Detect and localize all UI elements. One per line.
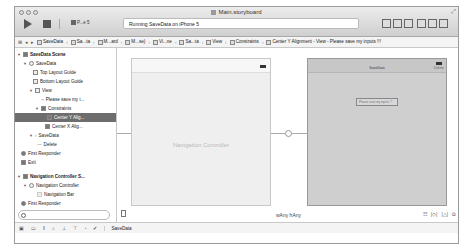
tree-item-label: Delete	[44, 142, 57, 147]
text-field[interactable]: Please save my inputs !!!	[356, 98, 398, 106]
tree-item[interactable]: ▼SaveData Scene	[17, 50, 66, 59]
tree-item-label: Center X Alig...	[52, 124, 83, 129]
tree-item[interactable]: Center X Alig...	[45, 122, 83, 131]
disclosure-triangle-icon[interactable]: ▼	[23, 61, 27, 66]
navigation-bar-icon	[37, 192, 42, 197]
debug-area-toggle-icon[interactable]	[428, 19, 437, 28]
breadcrumb-item[interactable]: Sa...ta	[71, 39, 90, 44]
fullscreen-icon[interactable]: ⤢	[451, 8, 456, 15]
forward-button[interactable]: ▸	[31, 40, 34, 45]
size-class-control[interactable]: wAny hAny	[117, 212, 459, 218]
breadcrumb-item[interactable]: Constraints	[230, 39, 259, 44]
disclosure-triangle-icon[interactable]: ▼	[35, 106, 39, 111]
tree-item[interactable]: Navigation Bar	[37, 190, 74, 199]
step-into-icon[interactable]: ⊥	[62, 226, 66, 231]
tree-item-label: SaveData Scene	[30, 52, 66, 57]
run-button[interactable]	[24, 19, 32, 29]
tree-item[interactable]: ▼Constraints	[35, 104, 71, 113]
window-title-text: Main.storyboard	[218, 9, 261, 15]
text-field-icon: ¬	[41, 97, 44, 102]
breadcrumb-label: View	[212, 39, 222, 44]
stop-button[interactable]	[43, 20, 51, 28]
first-responder-icon	[21, 151, 26, 156]
breadcrumb-item[interactable]: Vi...ne	[153, 39, 172, 44]
tree-item-label: SaveData	[39, 133, 59, 138]
step-out-icon[interactable]: ⊤	[73, 226, 77, 231]
step-over-icon[interactable]: ○	[52, 226, 55, 231]
xcode-window: Main.storyboard ⤢ P...e 5 Running SaveDa…	[14, 6, 459, 244]
back-button[interactable]: ◂	[25, 40, 28, 45]
navigation-controller-scene[interactable]: Navigation Controller Navigation Control…	[131, 58, 271, 206]
utilities-toggle-icon[interactable]	[439, 19, 448, 28]
tree-item[interactable]: Exit	[21, 158, 36, 167]
tree-item-label: Constraints	[48, 106, 71, 111]
savedata-scene[interactable]: SaveData Delete Please save my inputs !!…	[307, 58, 447, 206]
disclosure-triangle-icon[interactable]: ▼	[29, 88, 33, 93]
delete-bar-button[interactable]: Delete	[434, 66, 444, 70]
storyboard-canvas[interactable]: Navigation Controller Navigation Control…	[117, 48, 459, 222]
debug-target[interactable]: SaveData	[104, 226, 131, 231]
align-icon[interactable]: ☷	[423, 211, 427, 218]
chevron-icon: ›	[225, 40, 227, 45]
disclosure-triangle-icon[interactable]: ▼	[17, 52, 21, 57]
scheme-selector[interactable]: P...e 5	[71, 20, 89, 25]
breadcrumb-label: M...se)	[131, 39, 145, 44]
disclosure-triangle-icon[interactable]: ▼	[29, 133, 33, 138]
tree-item[interactable]: Bottom Layout Guide	[33, 77, 83, 86]
resolve-issues-icon[interactable]: |△|	[441, 211, 448, 218]
tree-item[interactable]: ▼SaveData	[23, 59, 56, 68]
constraint-icon	[45, 124, 50, 129]
tree-item[interactable]: —Delete	[37, 140, 57, 149]
segue-icon[interactable]	[285, 130, 292, 137]
tree-item[interactable]: First Responder	[21, 199, 61, 208]
tree-item[interactable]: ¬Please save my i...	[41, 95, 84, 104]
tree-item[interactable]: Top Layout Guide	[33, 68, 76, 77]
tree-item[interactable]: ▼Navigation Controller S...	[17, 172, 85, 181]
resizing-icon[interactable]: ⧉	[452, 211, 456, 218]
activity-status: Running SaveData on iPhone 5	[123, 18, 359, 29]
storyboard-icon	[125, 40, 130, 45]
related-items-icon[interactable]: ⊞	[18, 40, 22, 45]
constraints-icon	[41, 106, 46, 111]
tree-item-label: SaveData	[36, 61, 56, 66]
tree-item-label: Navigation Controller S...	[30, 174, 85, 179]
constraint-icon	[266, 40, 271, 45]
disclosure-triangle-icon[interactable]: ▼	[23, 183, 27, 188]
breadcrumb-item[interactable]: View	[206, 39, 222, 44]
constraints-icon	[230, 40, 235, 45]
chevron-icon: ›	[202, 40, 204, 45]
standard-editor-icon[interactable]	[382, 19, 391, 28]
tree-item-label: Bottom Layout Guide	[40, 79, 83, 84]
breadcrumb-item[interactable]: Center Y Alignment - View - Please save …	[266, 39, 381, 44]
toolbar: Main.storyboard ⤢ P...e 5 Running SaveDa…	[15, 7, 458, 37]
tree-item-label: Center Y Alig...	[54, 115, 84, 120]
view-debugger-icon[interactable]: ◔	[84, 226, 87, 231]
breadcrumb-label: M...ard	[104, 39, 118, 44]
tree-item[interactable]: ▼View	[29, 86, 52, 95]
tree-item-label: Exit	[28, 160, 36, 165]
tree-item[interactable]: First Responder	[21, 149, 61, 158]
version-editor-icon[interactable]	[404, 19, 413, 28]
location-icon[interactable]: ✔	[93, 226, 97, 231]
breadcrumb-label: Sa...ta	[185, 39, 198, 44]
tree-item-selected[interactable]: Center Y Alig...	[15, 113, 116, 122]
breadcrumb-item[interactable]: M...ard	[98, 39, 118, 44]
pin-icon[interactable]: |◇|	[431, 211, 438, 218]
assistant-editor-icon[interactable]	[393, 19, 402, 28]
editor-view-controls	[382, 19, 448, 28]
debug-bar: ▣ ▭ ‖ ○ ⊥ ⊤ ◔ ✔ SaveData	[15, 222, 458, 233]
pause-icon[interactable]: ‖	[43, 226, 45, 231]
breadcrumb-label: SaveData	[43, 39, 63, 44]
tree-item-label: Top Layout Guide	[40, 70, 76, 75]
breadcrumb-item[interactable]: M...se)	[125, 39, 145, 44]
breadcrumb-item[interactable]: Sa...ta	[179, 39, 198, 44]
breadcrumb-item[interactable]: SaveData	[37, 39, 63, 44]
filter-input[interactable]	[18, 210, 110, 220]
breakpoints-toggle-icon[interactable]: ▭	[31, 226, 36, 231]
disclosure-triangle-icon[interactable]: ▼	[17, 174, 21, 179]
tree-item[interactable]: ▼Navigation Controller	[23, 181, 79, 190]
tree-item[interactable]: ▼‹SaveData	[29, 131, 59, 140]
storyboard-icon	[211, 10, 216, 15]
debug-area-toggle-icon[interactable]: ▣	[19, 226, 24, 231]
navigator-toggle-icon[interactable]	[417, 19, 426, 28]
